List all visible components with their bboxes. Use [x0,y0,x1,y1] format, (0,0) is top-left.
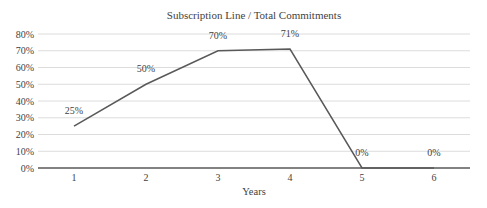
y-axis-tick-label: 60% [16,62,34,73]
data-label: 25% [65,105,83,116]
data-labels-group: 25%50%70%71%0%0% [65,28,441,158]
series-group [74,49,434,168]
x-axis-title: Years [242,186,265,197]
x-axis-tick-label: 4 [288,172,293,183]
y-axis-tick-label: 10% [16,146,34,157]
y-axis-tick-label: 80% [16,29,34,40]
line-chart: Subscription Line / Total Commitments 0%… [0,0,487,208]
data-label: 71% [281,28,299,39]
data-label: 70% [209,30,227,41]
x-axis-tick-label: 5 [360,172,365,183]
data-label: 0% [355,147,368,158]
x-axis-tick-label: 6 [432,172,437,183]
x-axis-tick-label: 3 [216,172,221,183]
data-label: 50% [137,63,155,74]
y-axis-tick-label: 0% [21,163,34,174]
y-axis-tick-label: 30% [16,112,34,123]
y-axis-tick-label: 50% [16,79,34,90]
data-label: 0% [427,147,440,158]
y-axis-tick-labels: 0%10%20%30%40%50%60%70%80% [16,29,34,174]
x-axis-tick-labels: 123456 [72,172,437,183]
x-axis-tick-label: 2 [144,172,149,183]
series-line [74,49,434,168]
x-axis-tick-label: 1 [72,172,77,183]
gridlines-group [38,34,470,168]
y-axis-tick-label: 40% [16,96,34,107]
chart-canvas: Subscription Line / Total Commitments 0%… [0,0,487,208]
chart-title: Subscription Line / Total Commitments [167,9,341,21]
y-axis-tick-label: 70% [16,45,34,56]
y-axis-tick-label: 20% [16,129,34,140]
